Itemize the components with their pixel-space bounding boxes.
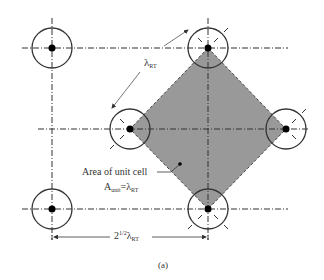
area-title-label: Area of unit cell — [82, 166, 147, 177]
figure-caption: (a) — [158, 260, 168, 270]
area-formula-label: Aunit=λRT — [104, 181, 138, 193]
diagonal-label: 21/2λRT — [114, 230, 139, 242]
lambda-side-label: λRT — [144, 56, 157, 69]
unit-cell-diagram — [0, 0, 324, 280]
